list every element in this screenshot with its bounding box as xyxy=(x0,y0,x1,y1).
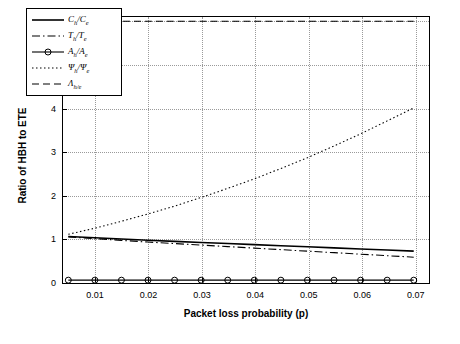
chart-figure: Ratio of HBH to ETE Packet loss probabil… xyxy=(0,0,460,344)
y-tick-label: 0 xyxy=(40,278,56,288)
y-axis-label: Ratio of HBH to ETE xyxy=(17,76,28,236)
legend-item: Ch/Ce xyxy=(27,12,121,28)
legend-label: Ψh/Ψe xyxy=(65,62,89,74)
legend-line-sample xyxy=(31,13,65,27)
y-tick-label: 2 xyxy=(40,191,56,201)
legend-item: Th/Te xyxy=(27,28,121,44)
legend-label: Ah/Ae xyxy=(65,46,88,58)
x-tick-mark xyxy=(202,278,203,282)
legend-label: Th/Te xyxy=(65,30,87,42)
legend-line-sample xyxy=(31,77,65,91)
y-tick-mark xyxy=(63,239,67,240)
legend-item: Ψh/Ψe xyxy=(27,60,121,76)
y-tick-mark xyxy=(63,152,67,153)
x-axis-label: Packet loss probability (p) xyxy=(62,308,430,319)
x-tick-label: 0.03 xyxy=(193,290,211,300)
x-tick-mark xyxy=(95,278,96,282)
x-tick-label: 0.07 xyxy=(407,290,425,300)
legend-label: Ch/Ce xyxy=(65,14,89,26)
series-line xyxy=(68,237,413,257)
y-tick-label: 1 xyxy=(40,234,56,244)
legend-line-sample xyxy=(31,61,65,75)
y-tick-label: 4 xyxy=(40,104,56,114)
x-tick-mark xyxy=(416,278,417,282)
x-tick-label: 0.04 xyxy=(247,290,265,300)
series-line xyxy=(68,108,413,234)
y-tick-mark xyxy=(63,109,67,110)
x-tick-mark xyxy=(255,278,256,282)
legend-item: Λh/e xyxy=(27,76,121,92)
legend: Ch/CeTh/TeAh/AeΨh/ΨeΛh/e xyxy=(26,8,122,96)
y-tick-mark xyxy=(63,283,67,284)
x-tick-label: 0.01 xyxy=(86,290,104,300)
y-tick-label: 3 xyxy=(40,147,56,157)
y-tick-mark xyxy=(63,196,67,197)
x-tick-label: 0.05 xyxy=(300,290,318,300)
legend-label: Λh/e xyxy=(65,78,81,90)
x-tick-label: 0.06 xyxy=(353,290,371,300)
series-line xyxy=(68,236,413,251)
x-tick-mark xyxy=(309,278,310,282)
x-tick-label: 0.02 xyxy=(140,290,158,300)
legend-line-sample xyxy=(31,29,65,43)
x-tick-mark xyxy=(148,278,149,282)
x-tick-mark xyxy=(362,278,363,282)
legend-item: Ah/Ae xyxy=(27,44,121,60)
legend-line-sample xyxy=(31,45,65,59)
